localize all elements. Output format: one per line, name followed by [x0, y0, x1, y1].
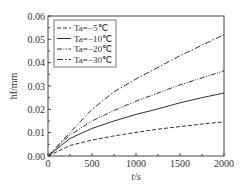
x-tick-label: 1500	[170, 158, 190, 169]
legend-label: Ta=−30℃	[74, 55, 112, 65]
x-tick-label: 0	[46, 158, 51, 169]
y-tick-label: 0.05	[28, 34, 46, 45]
x-axis-label: t/s	[131, 171, 141, 182]
y-tick-label: 0.02	[28, 104, 46, 115]
line-chart: 05001000150020000.000.010.020.030.040.05…	[0, 0, 245, 193]
y-tick-label: 0.04	[28, 57, 46, 68]
legend-label: Ta=−20℃	[74, 44, 112, 54]
y-tick-label: 0.01	[28, 127, 46, 138]
x-tick-label: 2000	[214, 158, 234, 169]
legend-label: Ta=−5℃	[74, 23, 108, 33]
x-tick-label: 1000	[126, 158, 146, 169]
y-axis-label: hf/mm	[8, 72, 19, 99]
series-line	[48, 122, 224, 156]
y-tick-label: 0.00	[28, 151, 46, 162]
x-tick-label: 500	[85, 158, 100, 169]
y-tick-label: 0.06	[28, 11, 46, 22]
y-tick-label: 0.03	[28, 81, 46, 92]
chart: 05001000150020000.000.010.020.030.040.05…	[0, 0, 245, 193]
legend-label: Ta=−10℃	[74, 34, 112, 44]
series-line	[48, 71, 224, 156]
